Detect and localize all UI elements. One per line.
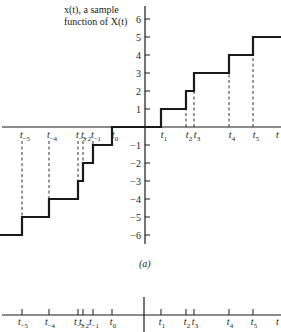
- t-label: t2: [184, 316, 191, 330]
- t-axis-label: t: [276, 129, 279, 140]
- y-tick-label: −2: [130, 158, 141, 169]
- y-tick-label: 5: [136, 32, 141, 43]
- bottom-t-axis-label: t: [276, 316, 279, 327]
- t-label: t−1: [89, 316, 100, 330]
- t-label: t5: [251, 316, 258, 330]
- bottom-t-labels: t−5t−4t−3t−2t−1t0t1t2t3t4t5: [18, 316, 258, 330]
- y-tick-label: 4: [136, 50, 141, 61]
- sample-function-figure: −6−5−4−3−2−1123456 t−5t−4t−3t−2t−1t0t1t2…: [0, 0, 281, 332]
- y-tick-label: 2: [136, 86, 141, 97]
- y-tick-label: −4: [130, 194, 141, 205]
- t-label: t−4: [47, 129, 58, 143]
- y-tick-label: −1: [130, 140, 141, 151]
- y-tick-label: 1: [136, 104, 141, 115]
- figure-caption: (a): [139, 258, 151, 270]
- event-times-axis: t−5t−4t−3t−2t−1t0t1t2t3t4t5 t: [2, 297, 281, 332]
- t-label: t−4: [45, 316, 56, 330]
- y-tick-label: 6: [136, 14, 141, 25]
- t-label: t−5: [18, 316, 29, 330]
- t-label: t3: [194, 129, 201, 143]
- t-label: t1: [159, 316, 166, 330]
- step-function-plot: −6−5−4−3−2−1123456 t−5t−4t−3t−2t−1t0t1t2…: [0, 6, 281, 244]
- t-label: t5: [253, 129, 260, 143]
- annotation: x(t), a sample function of X(t): [64, 4, 127, 28]
- t-label: t−5: [20, 129, 31, 143]
- annotation-line-2: function of X(t): [64, 16, 127, 28]
- t-label: t2: [186, 129, 193, 143]
- t-label: t1: [161, 129, 168, 143]
- t-label: t4: [227, 316, 234, 330]
- annotation-line-1: x(t), a sample: [64, 4, 127, 16]
- y-tick-label: −6: [130, 230, 141, 241]
- t-label: t−1: [91, 129, 102, 143]
- y-tick-label: −5: [130, 212, 141, 223]
- y-tick-label: −3: [130, 176, 141, 187]
- t-label: t3: [192, 316, 199, 330]
- t-label: t4: [229, 129, 236, 143]
- y-tick-label: 3: [136, 68, 141, 79]
- bottom-ticks: [22, 309, 253, 315]
- t-label: t0: [110, 316, 117, 330]
